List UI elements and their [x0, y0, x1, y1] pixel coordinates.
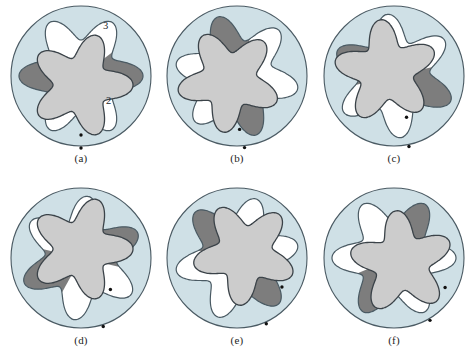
gerotor-diagram-a: 32 — [2, 0, 160, 150]
gerotor-diagram-c — [315, 0, 473, 150]
panel-caption-c: (c) — [315, 152, 473, 164]
gerotor-diagram-b — [158, 0, 316, 150]
housing-reference-dot-e — [265, 322, 268, 325]
panel-e: (e) — [158, 182, 316, 363]
housing-reference-dot-d — [102, 325, 105, 328]
panel-f: (f) — [315, 182, 473, 363]
rotor-reference-dot-c — [405, 115, 408, 118]
housing-reference-dot-f — [428, 319, 431, 322]
housing-reference-dot-a — [79, 146, 82, 149]
panel-b: (b) — [158, 0, 316, 181]
panel-caption-b: (b) — [158, 152, 316, 164]
rotor-reference-dot-b — [238, 128, 241, 131]
panel-a: 32(a) — [2, 0, 160, 181]
gerotor-diagram-d — [2, 182, 160, 332]
rotor-reference-dot-a — [79, 133, 82, 136]
annotation-outer-ring: 3 — [103, 20, 108, 31]
panel-caption-a: (a) — [2, 152, 160, 164]
housing-reference-dot-c — [407, 145, 410, 148]
panel-d: (d) — [2, 182, 160, 363]
gerotor-diagram-f — [315, 182, 473, 332]
gerotor-diagram-e — [158, 182, 316, 332]
rotor-reference-dot-d — [109, 288, 112, 291]
panel-caption-f: (f) — [315, 334, 473, 346]
panel-caption-d: (d) — [2, 334, 160, 346]
housing-reference-dot-b — [243, 146, 246, 149]
rotor-reference-dot-f — [443, 286, 446, 289]
panel-c: (c) — [315, 0, 473, 181]
annotation-inner-rotor: 2 — [106, 95, 111, 106]
figure-gerotor-sequence: 32(a)(b)(c)(d)(e)(f) — [0, 0, 475, 363]
rotor-reference-dot-e — [280, 285, 283, 288]
panel-caption-e: (e) — [158, 334, 316, 346]
